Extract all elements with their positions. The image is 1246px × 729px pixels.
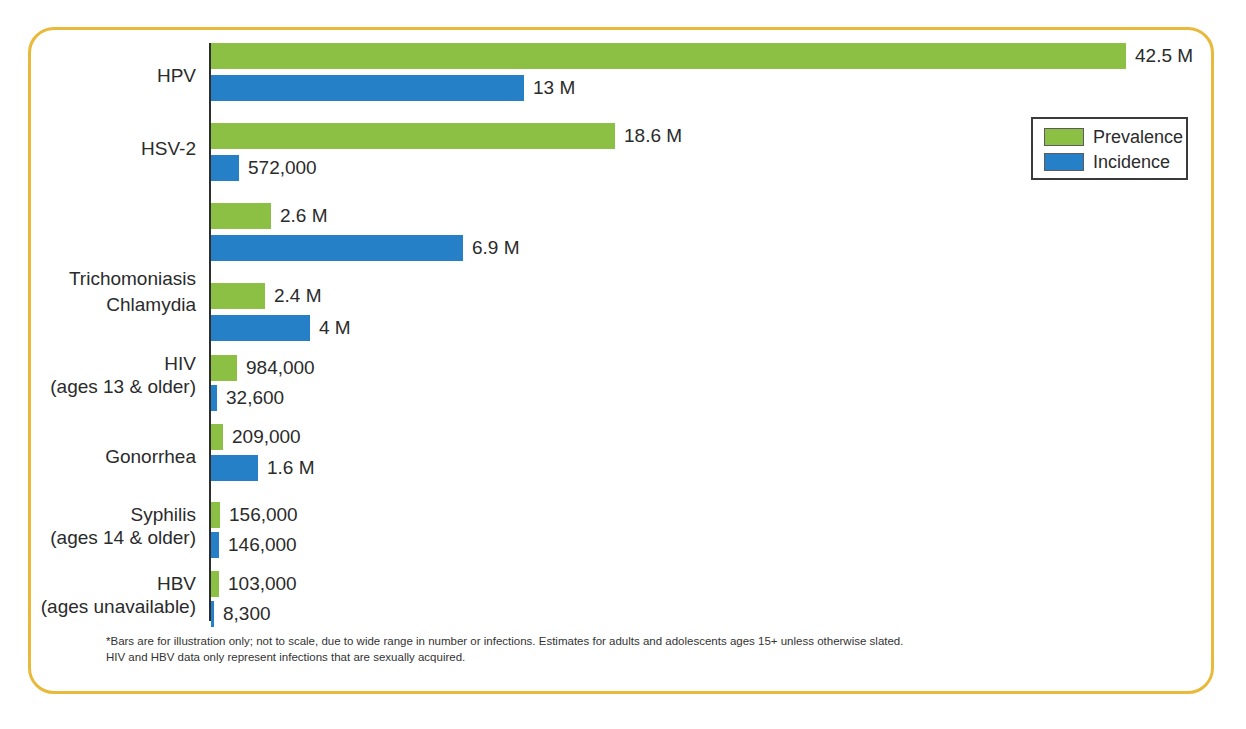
category-sublabel-text: (ages 13 & older)	[0, 375, 196, 398]
category-label-trichomoniasis: Trichomoniasis	[0, 267, 196, 290]
bar-value-label: 156,000	[229, 502, 298, 528]
bar-incidence-syphilis	[211, 532, 219, 558]
bar-prevalence-syphilis	[211, 502, 220, 528]
bar-prevalence-hsv-2	[211, 123, 615, 149]
category-label-text: HBV	[157, 573, 196, 594]
category-label-text: HPV	[157, 65, 196, 86]
chart-footnote: *Bars are for illustration only; not to …	[106, 633, 1116, 665]
bar-value-label: 2.4 M	[274, 283, 322, 309]
legend-swatch-incidence-icon	[1044, 153, 1084, 171]
bar-value-label: 572,000	[248, 155, 317, 181]
bar-prevalence-chlamydia	[211, 283, 265, 309]
legend-label-prevalence: Prevalence	[1093, 128, 1183, 146]
bar-value-label: 32,600	[226, 385, 284, 411]
legend-swatch-prevalence-icon	[1044, 128, 1084, 146]
bar-incidence-hpv	[211, 75, 524, 101]
bar-prevalence-hpv	[211, 43, 1126, 69]
bar-value-label: 6.9 M	[472, 235, 520, 261]
figure-root: HPV42.5 M13 MHSV-218.6 M572,000Trichomon…	[0, 0, 1246, 729]
category-label-text: HIV	[164, 353, 196, 374]
bar-value-label: 1.6 M	[267, 455, 315, 481]
bar-value-label: 984,000	[246, 355, 315, 381]
bar-incidence-hbv	[211, 601, 214, 627]
category-label-text: Syphilis	[131, 504, 196, 525]
legend-item-incidence: Incidence	[1044, 151, 1170, 173]
bar-value-label: 18.6 M	[624, 123, 682, 149]
bar-prevalence-gonorrhea	[211, 424, 223, 450]
bar-incidence-hsv-2	[211, 155, 239, 181]
category-label-hsv-2: HSV-2	[0, 137, 196, 160]
category-sublabel-text: (ages 14 & older)	[0, 526, 196, 549]
bar-value-label: 13 M	[533, 75, 575, 101]
category-label-text: HSV-2	[141, 138, 196, 159]
bar-value-label: 4 M	[319, 315, 351, 341]
bar-value-label: 146,000	[228, 532, 297, 558]
chart-plot-area: HPV42.5 M13 MHSV-218.6 M572,000Trichomon…	[0, 0, 1246, 729]
legend-item-prevalence: Prevalence	[1044, 126, 1183, 148]
bar-value-label: 103,000	[228, 571, 297, 597]
bar-prevalence-hiv	[211, 355, 237, 381]
bar-value-label: 42.5 M	[1135, 43, 1193, 69]
footnote-line-1: *Bars are for illustration only; not to …	[106, 633, 1116, 649]
category-label-text: Gonorrhea	[105, 446, 196, 467]
bar-incidence-gonorrhea	[211, 455, 258, 481]
category-label-hbv: HBV(ages unavailable)	[0, 572, 196, 618]
bar-incidence-trichomoniasis	[211, 235, 463, 261]
footnote-line-2: HIV and HBV data only represent infectio…	[106, 649, 1116, 665]
bar-incidence-hiv	[211, 385, 217, 411]
category-label-text: Chlamydia	[106, 294, 196, 315]
category-label-syphilis: Syphilis(ages 14 & older)	[0, 503, 196, 549]
category-label-hiv: HIV(ages 13 & older)	[0, 352, 196, 398]
category-label-text: Trichomoniasis	[69, 268, 196, 289]
category-label-chlamydia: Chlamydia	[0, 293, 196, 316]
bar-prevalence-hbv	[211, 571, 219, 597]
legend-label-incidence: Incidence	[1093, 153, 1170, 171]
category-label-hpv: HPV	[0, 64, 196, 87]
category-sublabel-text: (ages unavailable)	[0, 595, 196, 618]
bar-incidence-chlamydia	[211, 315, 310, 341]
bar-value-label: 2.6 M	[280, 203, 328, 229]
bar-rows-container: HPV42.5 M13 MHSV-218.6 M572,000Trichomon…	[0, 0, 1246, 729]
bar-value-label: 8,300	[223, 601, 271, 627]
chart-legend: Prevalence Incidence	[1031, 117, 1188, 180]
bar-value-label: 209,000	[232, 424, 301, 450]
bar-prevalence-trichomoniasis	[211, 203, 271, 229]
category-label-gonorrhea: Gonorrhea	[0, 445, 196, 468]
